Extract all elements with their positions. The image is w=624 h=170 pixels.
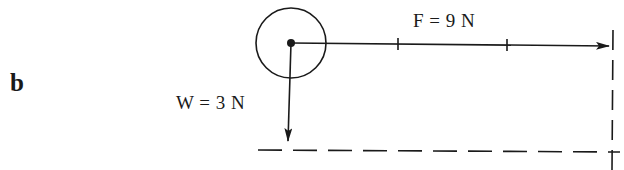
center-point: [287, 39, 295, 47]
force-label: F = 9 N: [413, 11, 475, 30]
weight-label: W = 3 N: [176, 93, 245, 112]
dashed-horizontal-line: [258, 150, 620, 152]
force-arrow: [291, 43, 609, 46]
dashed-vertical-line: [612, 30, 613, 170]
weight-arrow: [288, 43, 291, 141]
force-diagram: [0, 0, 624, 170]
